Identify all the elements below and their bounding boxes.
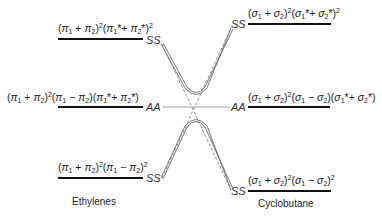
lower-avoided-curve (161, 120, 233, 191)
left-top-symmetry: SS (146, 34, 161, 46)
diagonal-ss-top-to-bottom (162, 44, 231, 190)
right-middle-configuration: (σ1 + σ2)2(σ1 − σ2)(σ1*+ σ2*) (248, 91, 376, 103)
right-bottom-configuration: (σ1 + σ2)2(σ1 − σ2)2 (248, 174, 335, 186)
right-top-configuration: (σ1 + σ2)2(σ1*+ σ2*)2 (248, 7, 340, 19)
right-middle-symmetry: AA (231, 101, 246, 113)
right-caption: Cyclobutane (258, 198, 314, 209)
right-top-symmetry: SS (231, 18, 246, 30)
left-bottom-symmetry: SS (146, 172, 161, 184)
left-top-configuration: (π1 + π2)2(π1*+ π2*)2 (58, 22, 153, 34)
left-middle-configuration: (π1 + π2)2(π1 − π2)(π1*+ π2*) (7, 91, 139, 103)
diagonal-ss-bottom-to-top (162, 28, 231, 178)
left-caption: Ethylenes (72, 196, 116, 207)
left-bottom-configuration: (π1 + π2)2(π1 − π2)2 (58, 161, 148, 173)
right-bottom-symmetry: SS (231, 185, 246, 197)
upper-avoided-curve (161, 28, 233, 95)
left-middle-symmetry: AA (146, 101, 161, 113)
